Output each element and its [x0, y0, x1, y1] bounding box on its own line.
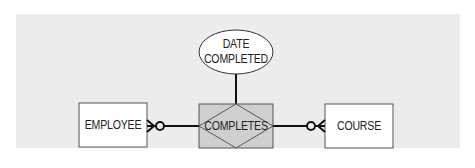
- entity-employee-label: EMPLOYEE: [83, 118, 143, 132]
- er-diagram: [0, 0, 475, 168]
- attribute-date-completed-label: DATE COMPLETED: [203, 37, 268, 67]
- attribute-label-line1: DATE: [203, 37, 268, 52]
- attribute-label-line2: COMPLETED: [203, 52, 268, 67]
- relationship-completes-label: COMPLETES: [203, 119, 268, 133]
- entity-course-label: COURSE: [329, 119, 389, 133]
